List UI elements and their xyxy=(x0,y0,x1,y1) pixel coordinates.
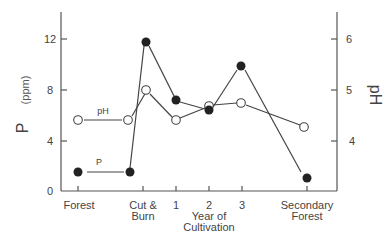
y-axis-unit: (ppm) xyxy=(19,76,31,105)
xcat-3: 3 xyxy=(239,199,245,211)
ytick-8: 8 xyxy=(47,84,53,96)
p-series-label: P xyxy=(96,157,102,167)
ytick-4: 4 xyxy=(47,135,53,147)
chart: 12 8 4 0 6 5 4 Forest Cut & Burn 1 2 3 S… xyxy=(0,0,392,238)
p-point-forest-end xyxy=(126,168,135,177)
xcat-1: 1 xyxy=(173,199,179,211)
series-ph xyxy=(74,86,309,132)
p-point-year2 xyxy=(205,106,214,115)
ph-point-forest xyxy=(74,116,83,125)
left-y-ticks: 12 8 4 0 xyxy=(44,33,67,197)
xcat-secondary-forest: Forest xyxy=(291,210,322,222)
x-axis-title-line2: Cultivation xyxy=(183,221,234,233)
p-point-year3 xyxy=(237,62,246,71)
ytick-0: 0 xyxy=(47,185,53,197)
y2tick-4: 4 xyxy=(349,135,355,147)
x-ticks xyxy=(78,186,307,191)
p-point-forest xyxy=(74,168,83,177)
ytick-12: 12 xyxy=(44,33,56,45)
p-point-cut-burn xyxy=(142,38,151,47)
y2tick-6: 6 xyxy=(346,33,352,45)
y2-axis-label: pH xyxy=(367,85,384,105)
series-p xyxy=(74,38,312,183)
ph-point-year3 xyxy=(237,99,246,108)
xcat-burn: Burn xyxy=(131,210,154,222)
ph-point-forest-end xyxy=(124,116,133,125)
ph-point-cut-burn xyxy=(142,86,151,95)
xcat-forest: Forest xyxy=(63,199,94,211)
ph-series-label: pH xyxy=(97,106,109,116)
y-axis-label: P xyxy=(14,123,31,134)
right-y-ticks: 6 5 4 xyxy=(331,33,355,147)
p-point-secondary-forest xyxy=(303,174,312,183)
ph-point-secondary-forest xyxy=(300,123,309,132)
ph-point-year1 xyxy=(172,116,181,125)
p-point-year1 xyxy=(172,96,181,105)
y2tick-5: 5 xyxy=(346,84,352,96)
